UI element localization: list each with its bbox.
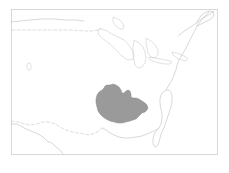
map-canvas — [0, 0, 229, 173]
lake-superior-outline — [98, 29, 134, 60]
pacific-coastline — [11, 124, 64, 155]
st-lawrence-river — [178, 11, 214, 36]
florida-coastline — [153, 90, 172, 147]
map-border — [12, 10, 218, 155]
lake-ontario-outline — [172, 52, 188, 61]
great-lakes-group — [98, 17, 188, 68]
gulf-coastline — [102, 128, 159, 138]
great-salt-lake-outline — [27, 63, 31, 70]
lake-winnipeg-outline — [113, 17, 124, 29]
highlighted-region — [96, 84, 148, 123]
canada-us-border — [12, 28, 101, 31]
lake-michigan-outline — [133, 40, 146, 68]
atlantic-coastline — [166, 12, 209, 90]
northwest-coastline — [11, 19, 84, 22]
lake-erie-outline — [149, 57, 172, 64]
map-figure — [0, 0, 229, 173]
lake-huron-outline — [146, 38, 158, 58]
